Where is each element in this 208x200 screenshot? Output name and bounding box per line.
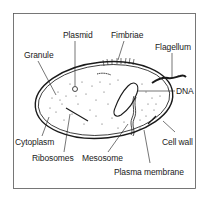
label-granule: Granule <box>24 50 54 60</box>
label-dna: DNA <box>176 86 194 96</box>
plasmid-shape <box>73 87 78 92</box>
label-ribosomes: Ribosomes <box>32 153 74 163</box>
label-mesosome: Mesosome <box>82 153 123 163</box>
label-cell-wall: Cell wall <box>162 137 193 147</box>
label-fimbriae: Fimbriae <box>111 30 143 40</box>
label-plasmid: Plasmid <box>63 30 93 40</box>
label-cytoplasm: Cytoplasm <box>15 137 54 147</box>
label-flagellum: Flagellum <box>155 42 191 52</box>
cell-wall-shape <box>31 55 176 145</box>
label-plasma-membrane: Plasma membrane <box>114 167 184 177</box>
